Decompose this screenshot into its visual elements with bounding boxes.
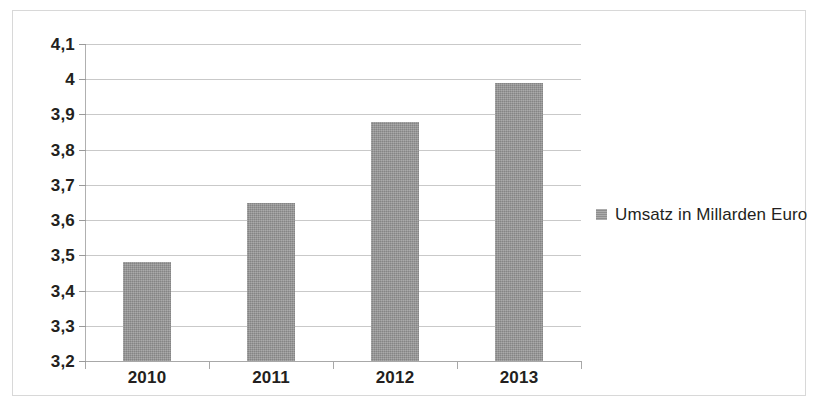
y-axis-tick	[79, 255, 86, 256]
x-axis-tick	[333, 362, 334, 369]
legend-label: Umsatz in Millarden Euro	[615, 206, 807, 223]
x-axis-tick	[457, 362, 458, 369]
y-axis-tick	[79, 326, 86, 327]
gridline	[85, 79, 581, 80]
y-axis-tick	[79, 150, 86, 151]
legend-swatch-icon	[596, 209, 607, 220]
y-axis-tick-label: 3,6	[21, 212, 75, 229]
y-axis-tick-label: 3,7	[21, 176, 75, 193]
y-axis-labels: 4,143,93,83,73,63,53,43,33,2	[13, 11, 75, 397]
x-axis-tick-label: 2013	[457, 369, 581, 386]
y-axis-tick	[79, 44, 86, 45]
gridline	[85, 44, 581, 45]
y-axis-tick-label: 3,9	[21, 106, 75, 123]
y-axis-tick	[79, 220, 86, 221]
y-axis-tick	[79, 114, 86, 115]
chart-legend: Umsatz in Millarden Euro	[596, 206, 807, 223]
x-axis-tick-label: 2011	[209, 369, 333, 386]
y-axis-tick	[79, 185, 86, 186]
y-axis-tick-label: 4	[21, 71, 75, 88]
y-axis-tick-label: 3,3	[21, 317, 75, 334]
y-axis-tick-label: 3,5	[21, 247, 75, 264]
x-axis-tick	[209, 362, 210, 369]
y-axis-tick-label: 3,4	[21, 282, 75, 299]
x-axis-tick	[85, 362, 86, 369]
y-axis-tick	[79, 79, 86, 80]
bar-2013	[495, 83, 543, 361]
plot-area	[85, 44, 581, 361]
x-axis-tick	[581, 362, 582, 369]
y-axis-tick-label: 3,2	[21, 353, 75, 370]
y-axis-tick	[79, 291, 86, 292]
x-axis-tick-label: 2010	[85, 369, 209, 386]
x-axis-tick-label: 2012	[333, 369, 457, 386]
y-axis-tick-label: 3,8	[21, 141, 75, 158]
bar-2010	[123, 262, 171, 361]
chart-frame: 4,143,93,83,73,63,53,43,33,2 Umsatz in M…	[12, 10, 806, 396]
bar-2012	[371, 122, 419, 362]
y-axis-tick-label: 4,1	[21, 36, 75, 53]
bar-2011	[247, 203, 295, 362]
